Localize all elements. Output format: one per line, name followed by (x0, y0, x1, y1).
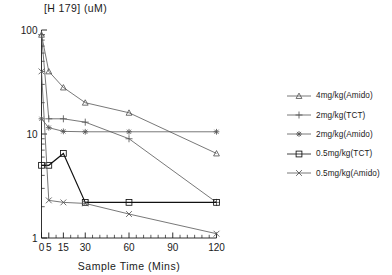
legend-item-4[interactable]: 0.5mg/kg(Amido) (285, 164, 380, 183)
x-tick-label: 60 (123, 242, 135, 253)
y-tick-label: 100 (21, 25, 38, 36)
legend-item-3[interactable]: 0.5mg/kg(TCT) (285, 144, 380, 163)
data-point-asterisk (39, 116, 45, 122)
legend-label: 0.5mg/kg(Amido) (316, 169, 380, 178)
x-tick-label: 5 (46, 242, 52, 253)
series-plus (38, 31, 220, 206)
y-axis-tick-labels: 100101 (21, 25, 38, 244)
plus-marker-icon (285, 108, 313, 122)
data-point-plus (82, 119, 89, 126)
data-point-asterisk (82, 129, 88, 135)
series-x (39, 68, 220, 236)
x-axis-ticks (42, 233, 217, 239)
square-marker-icon (285, 147, 313, 161)
x-tick-label: 30 (80, 242, 92, 253)
axes-group: 100101 0515306090120 (21, 25, 225, 253)
data-point-asterisk (126, 129, 132, 135)
data-point-asterisk (296, 132, 302, 138)
legend-label: 2mg/kg(Amido) (316, 130, 373, 139)
data-point-x (126, 211, 132, 217)
legend-label: 0.5mg/kg(TCT) (316, 149, 372, 158)
data-point-plus (60, 115, 67, 122)
y-tick-label: 10 (26, 129, 38, 140)
x-tick-label: 15 (58, 242, 70, 253)
legend-item-0[interactable]: 4mg/kg(Amido) (285, 86, 380, 105)
triangle-marker-icon (285, 89, 313, 103)
y-tick-label: 1 (32, 233, 38, 244)
chart-root: [H 179] (uM) 100101 0515306090120 Sample… (0, 0, 392, 275)
series-square (39, 151, 220, 206)
data-point-plus (296, 112, 303, 119)
data-point-asterisk (60, 128, 66, 134)
x-tick-label: 0 (39, 242, 45, 253)
x-marker-icon (285, 166, 313, 180)
chart-legend: 4mg/kg(Amido)2mg/kg(TCT)2mg/kg(Amido)0.5… (285, 86, 380, 183)
x-tick-label: 90 (167, 242, 179, 253)
legend-label: 2mg/kg(TCT) (316, 111, 365, 120)
x-axis-title: Sample Time (Mins) (78, 260, 180, 272)
y-axis-ticks (42, 30, 48, 238)
data-point-plus (126, 135, 133, 142)
x-axis-tick-labels: 0515306090120 (39, 242, 226, 253)
asterisk-marker-icon (285, 127, 313, 141)
data-series-layer (38, 31, 220, 236)
legend-label: 4mg/kg(Amido) (316, 91, 373, 100)
data-point-asterisk (46, 125, 52, 131)
legend-item-2[interactable]: 2mg/kg(Amido) (285, 125, 380, 144)
legend-item-1[interactable]: 2mg/kg(TCT) (285, 105, 380, 124)
x-tick-label: 120 (208, 242, 225, 253)
data-point-plus (45, 115, 52, 122)
data-point-asterisk (214, 129, 220, 135)
